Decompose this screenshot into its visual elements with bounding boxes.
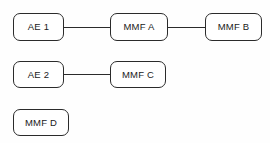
node-label-ae-1: AE 1 <box>28 22 49 32</box>
node-mmf-c[interactable]: MMF C <box>110 61 166 88</box>
node-ae-2[interactable]: AE 2 <box>13 61 64 88</box>
node-ae-1[interactable]: AE 1 <box>13 13 64 41</box>
node-mmf-d[interactable]: MMF D <box>13 109 69 136</box>
edge-ae-1-to-mmf-a <box>64 27 110 28</box>
node-label-mmf-c: MMF C <box>122 70 154 80</box>
edge-ae-2-to-mmf-c <box>64 74 110 75</box>
node-label-mmf-a: MMF A <box>123 22 154 32</box>
node-label-ae-2: AE 2 <box>28 70 49 80</box>
node-mmf-a[interactable]: MMF A <box>110 13 168 41</box>
node-mmf-b[interactable]: MMF B <box>205 13 262 41</box>
diagram-canvas: AE 1 MMF A MMF B AE 2 MMF C MMF D <box>0 0 270 143</box>
node-label-mmf-b: MMF B <box>218 22 250 32</box>
edge-mmf-a-to-mmf-b <box>168 27 205 28</box>
node-label-mmf-d: MMF D <box>25 118 57 128</box>
